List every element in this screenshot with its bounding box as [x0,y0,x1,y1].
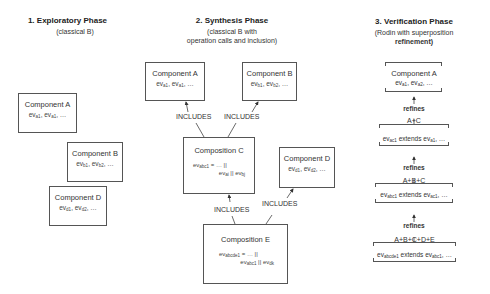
component-name: Component B [243,69,296,78]
includes-arrow-c-a [186,102,188,112]
includes-line-e-c [232,216,235,224]
level-abcde-bracket-bottom [373,258,456,262]
includes-label-c: INCLUDES [214,206,249,213]
includes-arrow-e-c [229,195,230,202]
exploratory-component-a: Component A eva1, eva1, … [18,93,77,133]
component-name: Component D [280,154,334,163]
includes-line-e-d [266,215,272,224]
event-list: evd1, evd2, … [50,204,106,212]
event-list: eva1, eva1, … [19,111,76,119]
phase3-title: 3. Verification Phase [364,17,464,26]
includes-label-b: INCLUDES [224,113,259,120]
verif-component-a-name: Component A [380,69,448,78]
exploratory-component-d: Component D evd1, evd2, … [49,186,107,226]
phase1-title: 1. Exploratory Phase [20,16,115,25]
phase1-subtitle: (classical B) [20,27,130,37]
level-abc-name: A+B+C [375,177,453,184]
component-name: Component A [146,69,204,78]
level-ac-bracket-bottom [379,142,449,146]
includes-arrow-c-b [252,102,258,112]
component-name: Component D [50,193,106,202]
composition-name: Composition E [204,235,287,244]
phase2-title: 2. Synthesis Phase [172,16,292,25]
synthesis-component-b: Component B evb1, evb2, … [242,62,297,101]
composition-formula-line2: evabc1 || evdk [204,259,287,266]
refines-label-2: refines [394,164,434,171]
level-ac-name: A+C [379,117,449,124]
verif-component-a-bracket-bottom [385,88,442,92]
includes-line-c-a [196,123,204,137]
level-abc-extends: evabc1 extends evac1, … [375,191,453,199]
includes-label-a: INCLUDES [176,113,211,120]
refines-label-1: refines [394,105,434,112]
refines-label-3: refines [394,222,434,229]
event-list: evb1, evb2, … [68,160,122,168]
includes-line-c-b [228,123,236,137]
composition-formula-line1: evabcde1 = … || [204,251,287,258]
level-abc-bracket-bottom [375,199,453,203]
composition-formula-line2: evai || evbj [184,170,254,177]
synthesis-composition-e: Composition E evabcde1 = … || evabc1 || … [203,224,288,284]
level-abcde-name: A+B+C+D+E [373,236,456,243]
event-list: eva1, eva1, … [146,80,204,88]
phase2-subtitle-line2: operation calls and inclusion) [162,36,302,46]
synthesis-component-a: Component A eva1, eva1, … [145,62,205,101]
component-name: Component A [19,100,76,109]
component-name: Component B [68,149,122,158]
event-list: evd1, evd2, … [280,165,334,173]
exploratory-component-b: Component B evb1, evb2, … [67,142,123,182]
composition-formula-line1: evabc1 = … || [184,162,254,169]
synthesis-composition-c: Composition C evabc1 = … || evai || evbj [183,137,255,194]
verif-component-a-events: eva1, eva2, … [380,79,448,87]
level-ac-bracket-top [379,124,449,128]
verif-component-a-bracket-top [385,62,442,66]
synthesis-component-d: Component D evd1, evd2, … [279,147,335,188]
event-list: evb1, evb2, … [243,80,296,88]
includes-label-d: INCLUDES [262,200,297,207]
includes-arrow-e-d [287,189,293,198]
phase3-subtitle-line2: refinement) [354,37,474,47]
composition-name: Composition C [184,146,254,155]
